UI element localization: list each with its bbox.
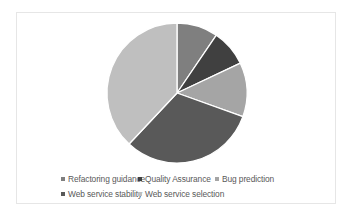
legend-swatch (61, 192, 65, 196)
legend-swatch (138, 177, 142, 181)
legend-item-quality-assurance[interactable]: Quality Assurance (138, 174, 211, 184)
legend-swatch (215, 177, 219, 181)
legend-item-web-service-stability[interactable]: Web service stability (61, 189, 142, 199)
legend-label: Quality Assurance (145, 174, 211, 184)
pie-chart (0, 0, 353, 218)
legend-label: Web service stability (68, 189, 142, 199)
legend-label: Bug prediction (222, 174, 274, 184)
legend-item-refactoring-guidance[interactable]: Refactoring guidance (61, 174, 145, 184)
pie-slices (107, 23, 247, 163)
legend-item-web-service-selection[interactable]: Web service selection (138, 189, 224, 199)
legend-swatch (61, 177, 65, 181)
legend-item-bug-prediction[interactable]: Bug prediction (215, 174, 274, 184)
legend-swatch (138, 192, 142, 196)
legend-label: Refactoring guidance (68, 174, 145, 184)
legend-label: Web service selection (145, 189, 224, 199)
